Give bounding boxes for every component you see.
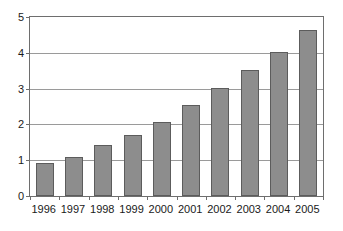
x-tick-label-2005: 2005	[295, 203, 319, 215]
y-tick-label-4: 4	[8, 47, 24, 58]
bar-2003	[241, 70, 259, 196]
x-tick-label-1999: 1999	[119, 203, 143, 215]
x-tick-mark-1997	[89, 196, 90, 200]
x-tick-label-2003: 2003	[237, 203, 261, 215]
y-tick-label-3: 3	[8, 83, 24, 94]
x-tick-mark-2003	[264, 196, 265, 200]
bar-1996	[36, 163, 54, 196]
x-tick-mark-1998	[118, 196, 119, 200]
x-tick-mark-2002	[235, 196, 236, 200]
y-axis: 012345	[8, 0, 24, 231]
bar-1998	[94, 145, 112, 196]
bar-2002	[211, 88, 229, 196]
x-tick-mark-2005	[323, 196, 324, 200]
bar-chart: 012345 199619971998199920002001200220032…	[0, 0, 343, 231]
bar-2004	[270, 52, 288, 196]
bar-2005	[299, 30, 317, 196]
x-tick-label-1998: 1998	[90, 203, 114, 215]
bars-group	[30, 17, 323, 196]
x-tick-label-2004: 2004	[266, 203, 290, 215]
bar-1999	[124, 135, 142, 196]
bar-2000	[153, 122, 171, 196]
x-tick-label-2000: 2000	[149, 203, 173, 215]
x-tick-mark-2001	[206, 196, 207, 200]
x-tick-label-1997: 1997	[61, 203, 85, 215]
x-axis: 1996199719981999200020012002200320042005	[29, 203, 324, 219]
y-tick-label-5: 5	[8, 12, 24, 23]
x-tick-mark-1999	[147, 196, 148, 200]
plot-area	[29, 16, 324, 197]
bar-1997	[65, 157, 83, 196]
x-tick-mark-2000	[177, 196, 178, 200]
x-tick-label-2002: 2002	[207, 203, 231, 215]
y-tick-label-2: 2	[8, 119, 24, 130]
y-tick-label-0: 0	[8, 191, 24, 202]
x-tick-mark-2004	[294, 196, 295, 200]
x-tick-mark-origin	[30, 196, 31, 200]
x-tick-label-1996: 1996	[31, 203, 55, 215]
x-tick-label-2001: 2001	[178, 203, 202, 215]
bar-2001	[182, 105, 200, 196]
x-tick-mark-1996	[59, 196, 60, 200]
y-tick-label-1: 1	[8, 155, 24, 166]
